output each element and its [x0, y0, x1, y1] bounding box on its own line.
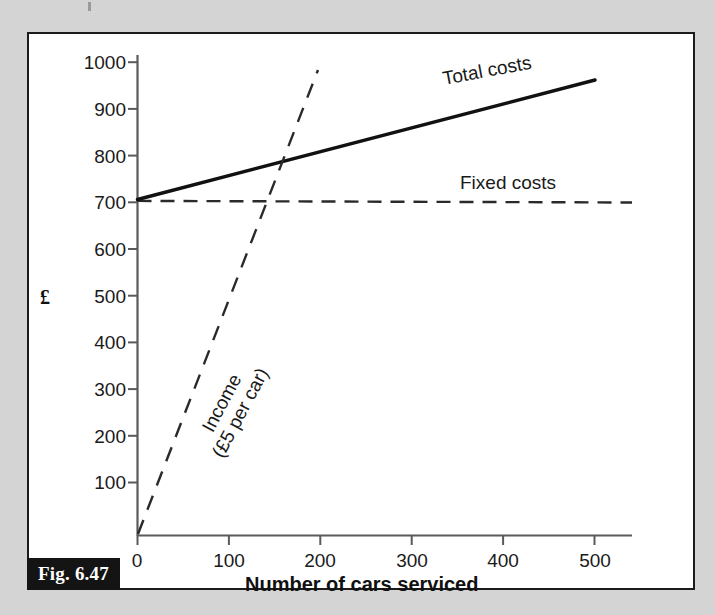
x-tick-label-500: 500: [565, 550, 625, 572]
series-label-fixed-costs: Fixed costs: [460, 172, 556, 194]
y-tick-label-400: 400: [64, 332, 126, 354]
x-tick-label-300: 300: [382, 550, 442, 572]
y-tick-label-100: 100: [64, 472, 126, 494]
y-tick-label-900: 900: [64, 99, 126, 121]
y-axis-title: £: [40, 286, 50, 309]
y-tick-label-200: 200: [64, 426, 126, 448]
figure-container: 1000 900 800 700 600 500 400 300 200 100…: [0, 0, 715, 615]
x-tick-label-200: 200: [290, 550, 350, 572]
figure-number-badge: Fig. 6.47: [27, 558, 120, 590]
y-tick-label-800: 800: [64, 146, 126, 168]
y-tick-label-500: 500: [64, 286, 126, 308]
x-tick-label-100: 100: [199, 550, 259, 572]
y-tick-label-600: 600: [64, 239, 126, 261]
x-tick-label-400: 400: [473, 550, 533, 572]
y-tick-label-700: 700: [64, 192, 126, 214]
stray-print-mark: [88, 2, 91, 11]
y-tick-label-300: 300: [64, 379, 126, 401]
y-tick-label-1000: 1000: [64, 52, 126, 74]
chart-panel: [27, 32, 695, 590]
x-axis-title: Number of cars serviced: [245, 573, 478, 596]
